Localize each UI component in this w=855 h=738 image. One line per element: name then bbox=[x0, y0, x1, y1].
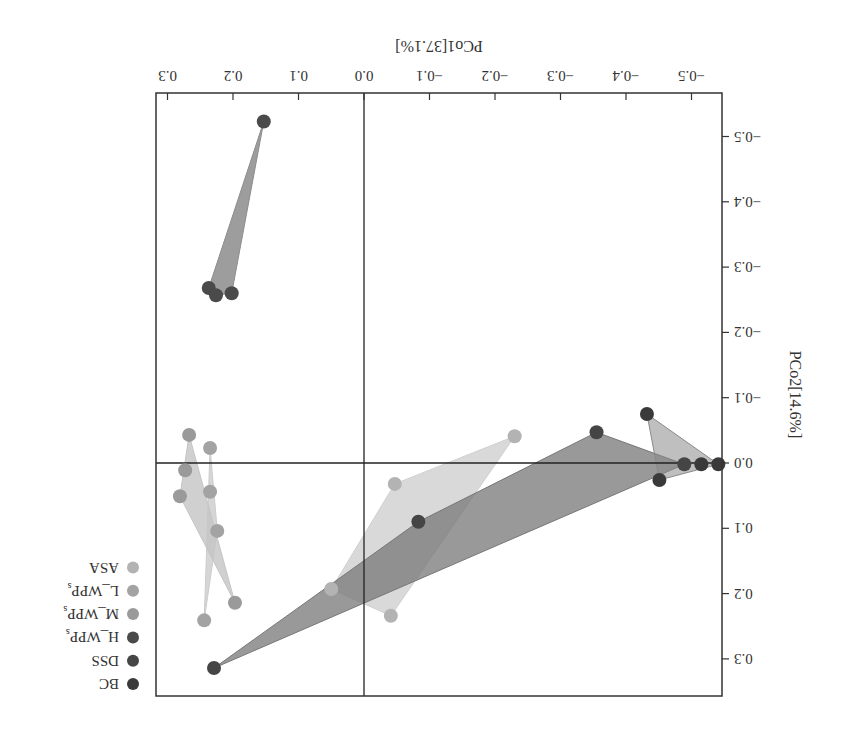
legend-item-asa: ASA bbox=[89, 560, 139, 576]
data-point-bc bbox=[652, 473, 666, 487]
legend-item-dss: DSS bbox=[91, 653, 139, 669]
legend-marker-icon bbox=[127, 631, 139, 643]
x-tick-label: 0.0 bbox=[355, 68, 374, 84]
x-tick-label: −0.2 bbox=[481, 68, 508, 84]
y-tick-label: 0.3 bbox=[734, 651, 753, 667]
y-tick-label: −0.5 bbox=[734, 129, 761, 145]
legend-label: M_WPPs bbox=[63, 604, 119, 622]
x-tick-label: 0.3 bbox=[158, 68, 177, 84]
data-point-dss bbox=[411, 515, 425, 529]
data-point-bc bbox=[711, 457, 725, 471]
data-point-bc bbox=[694, 457, 708, 471]
y-tick-label: −0.3 bbox=[734, 259, 761, 275]
data-point-h-wpps bbox=[225, 286, 239, 300]
legend-label: ASA bbox=[89, 560, 119, 576]
data-point-bc bbox=[640, 407, 654, 421]
legend-label: BC bbox=[99, 676, 119, 692]
x-tick-label: −0.4 bbox=[612, 68, 640, 84]
pcoa-chart: −0.5−0.4−0.3−0.2−0.10.00.10.20.3 −0.5−0.… bbox=[0, 0, 855, 738]
data-point-l-wpps bbox=[210, 524, 224, 538]
data-point-l-wpps bbox=[203, 485, 217, 499]
data-point-dss bbox=[677, 457, 691, 471]
legend-marker-icon bbox=[127, 655, 139, 667]
y-tick-label: −0.4 bbox=[734, 194, 762, 210]
y-tick-label: −0.1 bbox=[734, 390, 761, 406]
legend-marker-icon bbox=[127, 562, 139, 574]
data-point-l-wpps bbox=[203, 441, 217, 455]
hull-h-wpps bbox=[209, 121, 264, 295]
data-point-asa bbox=[388, 477, 402, 491]
legend-marker-icon bbox=[127, 678, 139, 690]
y-tick-label: 0.1 bbox=[734, 520, 753, 536]
data-point-m-wpps bbox=[182, 428, 196, 442]
y-tick-label: −0.2 bbox=[734, 324, 761, 340]
legend-item-l-wpps: L_WPPs bbox=[67, 581, 139, 599]
legend-item-m-wpps: M_WPPs bbox=[63, 604, 139, 622]
legend-item-h-wpps: H_WPPs bbox=[66, 627, 139, 645]
x-axis-label: PCo1[37.1%] bbox=[395, 38, 483, 55]
data-point-asa bbox=[324, 582, 338, 596]
x-axis: −0.5−0.4−0.3−0.2−0.10.00.10.20.3 bbox=[158, 68, 705, 100]
data-point-h-wpps bbox=[209, 288, 223, 302]
data-point-m-wpps bbox=[173, 489, 187, 503]
data-point-asa bbox=[384, 609, 398, 623]
data-point-dss bbox=[590, 425, 604, 439]
legend-marker-icon bbox=[127, 608, 139, 620]
x-tick-label: −0.3 bbox=[547, 68, 574, 84]
data-point-h-wpps bbox=[257, 114, 271, 128]
data-point-dss bbox=[207, 661, 221, 675]
legend-label: L_WPPs bbox=[67, 581, 119, 599]
x-tick-label: 0.1 bbox=[289, 68, 308, 84]
legend-label: H_WPPs bbox=[66, 627, 119, 645]
data-point-asa bbox=[508, 429, 522, 443]
legend-label: DSS bbox=[91, 653, 119, 669]
data-point-m-wpps bbox=[178, 463, 192, 477]
data-point-m-wpps bbox=[228, 596, 242, 610]
data-point-l-wpps bbox=[197, 613, 211, 627]
x-tick-label: −0.1 bbox=[416, 68, 443, 84]
x-tick-label: 0.2 bbox=[224, 68, 243, 84]
rotated-figure: −0.5−0.4−0.3−0.2−0.10.00.10.20.3 −0.5−0.… bbox=[63, 38, 804, 696]
x-tick-label: −0.5 bbox=[678, 68, 705, 84]
legend: BCDSSH_WPPsM_WPPsL_WPPsASA bbox=[63, 560, 139, 693]
plot-area bbox=[156, 93, 725, 696]
y-tick-label: 0.0 bbox=[734, 455, 753, 471]
y-axis: −0.5−0.4−0.3−0.2−0.10.00.10.20.3 bbox=[722, 129, 761, 667]
y-axis-label: PCo2[14.6%] bbox=[787, 351, 804, 439]
y-tick-label: 0.2 bbox=[734, 586, 753, 602]
legend-marker-icon bbox=[127, 585, 139, 597]
legend-item-bc: BC bbox=[99, 676, 139, 692]
